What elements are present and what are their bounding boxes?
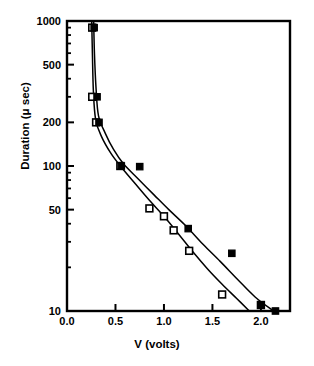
x-tick-label: 0.5: [108, 315, 123, 327]
filled-square-marker: [185, 225, 191, 231]
filled-square-marker: [91, 24, 97, 30]
open-square-marker: [186, 247, 193, 254]
chart-figure: 10005002001005010 0.00.51.01.52.0 Durati…: [0, 0, 314, 366]
y-axis-ticks: [67, 21, 74, 311]
filled-square-marker: [137, 163, 143, 169]
filled-square-marker: [229, 250, 235, 256]
filled-square-marker: [118, 163, 124, 169]
y-tick-label: 100: [43, 160, 61, 172]
plot-area: 10005002001005010 0.00.51.01.52.0: [0, 0, 314, 366]
y-tick-label: 500: [43, 59, 61, 71]
plot-frame: [67, 21, 290, 311]
x-axis-tick-labels: 0.00.51.01.52.0: [59, 315, 268, 327]
filled-square-marker: [258, 302, 264, 308]
open-square-marker: [146, 205, 153, 212]
x-tick-label: 0.0: [59, 315, 74, 327]
y-tick-label: 1000: [37, 15, 61, 27]
x-tick-label: 2.0: [253, 315, 268, 327]
filled-square-marker: [96, 119, 102, 125]
open-square-marker: [161, 213, 168, 220]
data-points: [89, 24, 279, 314]
y-tick-label: 50: [49, 204, 61, 216]
open-square-marker: [219, 291, 226, 298]
filled-square-marker: [272, 308, 278, 314]
y-axis-tick-labels: 10005002001005010: [37, 15, 61, 317]
x-axis-title: V (volts): [0, 338, 314, 350]
open-square-marker: [170, 227, 177, 234]
y-axis-title: Duration (μ sec): [19, 56, 31, 196]
x-tick-label: 1.0: [156, 315, 171, 327]
x-tick-label: 1.5: [205, 315, 220, 327]
y-tick-label: 200: [43, 116, 61, 128]
filled-square-marker: [94, 94, 100, 100]
